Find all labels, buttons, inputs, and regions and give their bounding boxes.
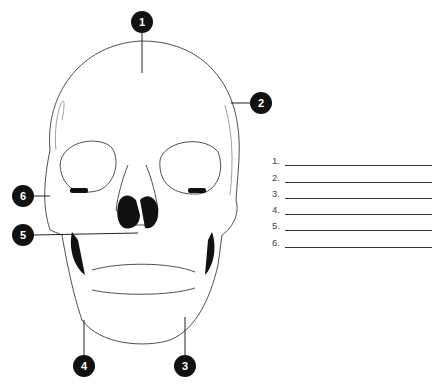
answer-number: 1. — [272, 155, 284, 166]
marker-6: 6 — [12, 185, 34, 207]
answer-number: 4. — [272, 204, 284, 215]
answer-number: 5. — [272, 220, 284, 231]
answer-row-5: 5. — [272, 215, 432, 231]
answer-number: 3. — [272, 188, 284, 199]
answer-number: 2. — [272, 172, 284, 183]
answer-row-2: 2. — [272, 166, 432, 182]
marker-4: 4 — [73, 355, 95, 377]
marker-5: 5 — [12, 224, 34, 246]
answer-row-3: 3. — [272, 183, 432, 199]
answer-row-1: 1. — [272, 150, 432, 166]
answer-row-4: 4. — [272, 199, 432, 215]
answer-blank[interactable] — [285, 221, 432, 231]
answer-blank[interactable] — [285, 189, 432, 199]
answer-blank[interactable] — [285, 238, 432, 248]
marker-1: 1 — [131, 11, 153, 33]
answer-list: 1. 2. 3. 4. 5. 6. — [272, 150, 432, 248]
answer-blank[interactable] — [285, 205, 432, 215]
marker-2: 2 — [250, 92, 272, 114]
answer-row-6: 6. — [272, 231, 432, 247]
marker-3: 3 — [174, 355, 196, 377]
answer-blank[interactable] — [285, 173, 432, 183]
answer-number: 6. — [272, 237, 284, 248]
answer-blank[interactable] — [285, 156, 432, 166]
